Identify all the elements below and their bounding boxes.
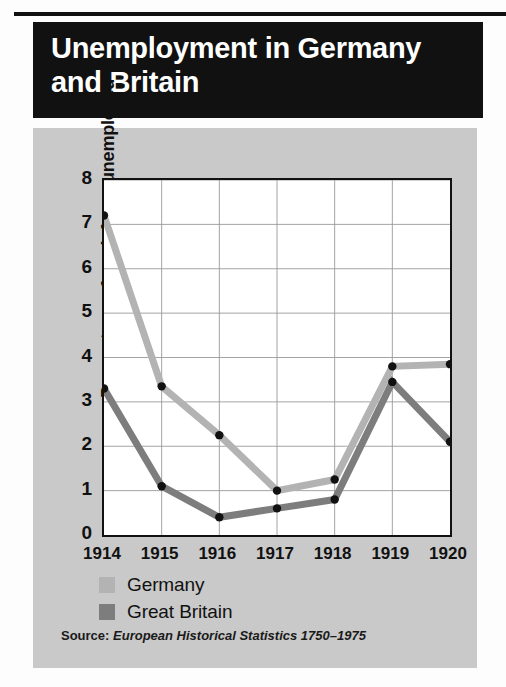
top-rule-divider: [14, 12, 506, 16]
data-point: [330, 495, 338, 503]
x-tick-label: 1920: [422, 545, 474, 562]
data-point: [388, 378, 396, 386]
x-tick-label: 1917: [249, 545, 301, 562]
legend-swatch-icon: [99, 604, 115, 620]
data-point: [215, 431, 223, 439]
data-point: [330, 475, 338, 483]
x-tick-label: 1919: [364, 545, 416, 562]
source-note: Source: European Historical Statistics 1…: [61, 628, 461, 643]
x-tick-label: 1914: [76, 545, 128, 562]
y-tick-label: 7: [66, 212, 92, 231]
y-tick-label: 4: [66, 346, 92, 365]
y-tick-label: 0: [66, 523, 92, 542]
chart-legend: GermanyGreat Britain: [99, 571, 429, 625]
y-tick-label: 3: [66, 390, 92, 409]
x-tick-label: 1916: [191, 545, 243, 562]
legend-item: Great Britain: [99, 598, 429, 625]
data-point: [388, 362, 396, 370]
legend-item: Germany: [99, 571, 429, 598]
chart-figure: Unemployment in Germany and Britain Perc…: [0, 0, 506, 687]
source-prefix: Source:: [61, 628, 113, 643]
legend-label: Great Britain: [127, 601, 232, 623]
data-point: [157, 382, 165, 390]
legend-label: Germany: [127, 574, 204, 596]
data-point: [273, 486, 281, 494]
x-tick-label: 1915: [134, 545, 186, 562]
plot-svg: [104, 180, 450, 535]
y-tick-label: 2: [66, 434, 92, 453]
y-tick-label: 5: [66, 301, 92, 320]
y-tick-label: 8: [66, 168, 92, 187]
x-tick-label: 1918: [307, 545, 359, 562]
data-point: [273, 504, 281, 512]
plot-area: [102, 178, 452, 537]
chart-panel: Percentage of work force unemployed 0123…: [33, 128, 477, 668]
legend-swatch-icon: [99, 577, 115, 593]
y-tick-label: 6: [66, 257, 92, 276]
y-tick-label: 1: [66, 479, 92, 498]
data-point: [215, 513, 223, 521]
data-point: [157, 482, 165, 490]
source-title: European Historical Statistics 1750–1975: [113, 628, 366, 643]
